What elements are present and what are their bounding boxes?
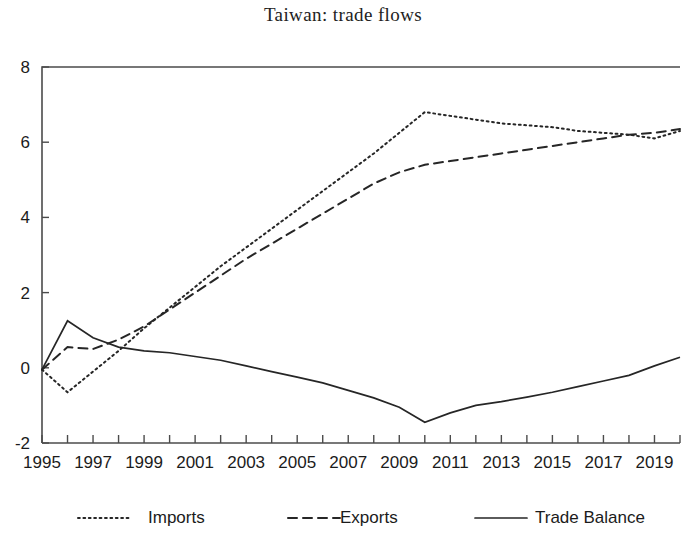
y-tick-label: 4: [21, 208, 30, 227]
x-axis-tick-labels: 1995199719992001200320052007200920112013…: [23, 453, 673, 472]
legend-label-exports: Exports: [340, 508, 398, 527]
series-line-trade-balance: [42, 321, 680, 423]
x-tick-label: 2005: [278, 453, 316, 472]
chart-series-group: [42, 112, 680, 422]
legend-label-trade-balance: Trade Balance: [535, 508, 645, 527]
y-axis-tick-labels: -202468: [15, 58, 30, 453]
x-tick-label: 1999: [125, 453, 163, 472]
y-tick-label: 8: [21, 58, 30, 77]
x-tick-label: 2015: [533, 453, 571, 472]
y-tick-label: -2: [15, 434, 30, 453]
chart-legend: ImportsExportsTrade Balance: [78, 508, 645, 527]
x-tick-label: 1995: [23, 453, 61, 472]
x-tick-label: 2003: [227, 453, 265, 472]
figure-container: Taiwan: trade flows -202468 199519971999…: [0, 0, 686, 538]
x-tick-label: 2019: [636, 453, 674, 472]
x-tick-label: 2007: [329, 453, 367, 472]
x-tick-label: 1997: [74, 453, 112, 472]
axis-frame: [42, 67, 680, 443]
x-tick-label: 2013: [482, 453, 520, 472]
x-tick-label: 2017: [585, 453, 623, 472]
x-tick-label: 2011: [432, 453, 469, 472]
chart-axes: [42, 67, 680, 443]
y-tick-label: 0: [21, 359, 30, 378]
y-tick-label: 6: [21, 133, 30, 152]
x-tick-label: 2001: [176, 453, 214, 472]
line-chart-plot: -202468 19951997199920012003200520072009…: [0, 0, 686, 538]
y-tick-label: 2: [21, 284, 30, 303]
x-tick-label: 2009: [380, 453, 418, 472]
legend-label-imports: Imports: [148, 508, 205, 527]
